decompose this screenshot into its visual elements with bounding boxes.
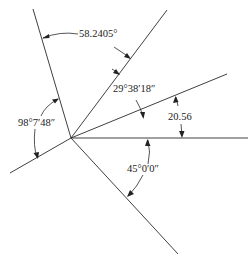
dimension-label: 58.2405° [79,28,117,39]
arrowhead-icon [140,112,145,119]
dimension-label: 98°7′48″ [18,117,55,128]
arrowhead-icon [145,139,151,146]
ray-lower-left [10,138,71,173]
dimension-20-56: 20.56 [168,96,192,138]
dimension-98-7-48: 98°7′48″ [18,99,59,160]
angle-diagram: 58.2405° 29°38′18″ 20.56 98°7′48″ 45°0′0… [0,0,250,264]
arrowhead-icon [173,96,179,103]
dimension-58-2405: 58.2405° [42,28,131,59]
dimension-45-0-0: 45°0′0″ [127,139,159,197]
rays [10,9,248,254]
dimension-label: 20.56 [168,111,192,122]
dimension-29-38-18: 29°38′18″ [112,69,155,119]
ray-lower-right [71,138,178,254]
dimension-label: 29°38′18″ [113,83,155,94]
arrowhead-icon [42,34,50,39]
arrowhead-icon [52,99,59,104]
arrowhead-icon [179,131,185,138]
dimension-label: 45°0′0″ [127,163,159,174]
